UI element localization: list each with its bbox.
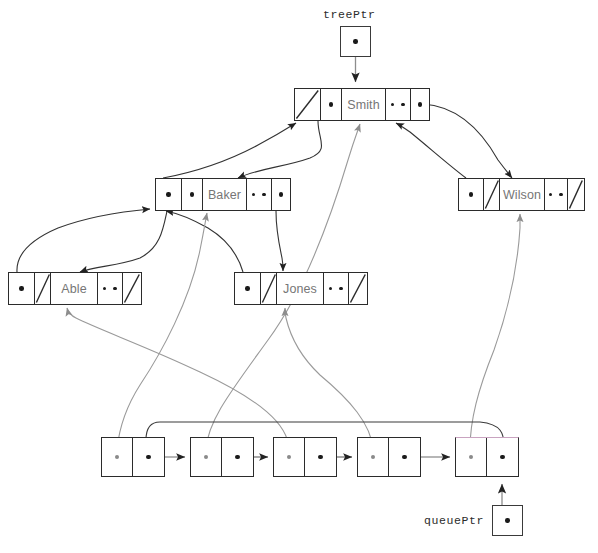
wilson-name-cell: Wilson <box>500 179 544 210</box>
tree-node-jones[interactable]: Jones <box>234 272 368 305</box>
pointer-dot <box>402 455 406 459</box>
queue-node-4-data-pointer-cell <box>358 438 389 476</box>
pointer-dot <box>469 455 473 459</box>
queue-node-2-next-pointer-cell <box>222 438 253 476</box>
node-layer: treePtr Smith <box>0 0 598 553</box>
null-slash-icon <box>349 273 367 304</box>
able-right-null-cell <box>123 273 141 304</box>
queue-node-3-data-pointer-cell <box>274 438 305 476</box>
smith-data-cell <box>386 89 412 120</box>
queue-node-3[interactable] <box>273 437 337 477</box>
queue-node-2-data-pointer-cell <box>191 438 222 476</box>
pointer-dot <box>418 102 422 106</box>
jones-parent-pointer-cell <box>235 273 261 304</box>
ellipsis-icon <box>545 193 569 196</box>
null-slash-icon <box>123 273 141 304</box>
smith-right-pointer-cell <box>411 89 429 120</box>
baker-parent-pointer-cell <box>156 179 182 210</box>
queue-node-2[interactable] <box>190 437 254 477</box>
queue-node-1-data-pointer-cell <box>102 438 133 476</box>
tree-node-able[interactable]: Able <box>8 272 142 305</box>
pointer-dot <box>329 102 333 106</box>
jones-left-null-cell <box>261 273 278 304</box>
null-slash-icon <box>295 89 320 120</box>
ellipsis-icon <box>247 193 273 196</box>
able-parent-pointer-cell <box>9 273 35 304</box>
pointer-dot <box>204 455 208 459</box>
treeptr-label: treePtr <box>323 8 376 21</box>
smith-parent-null-cell <box>295 89 321 120</box>
queue-node-1[interactable] <box>101 437 165 477</box>
pointer-dot <box>146 455 150 459</box>
pointer-dot <box>318 455 322 459</box>
baker-name-cell: Baker <box>203 179 246 210</box>
pointer-dot <box>245 286 249 290</box>
able-name-cell: Able <box>51 273 97 304</box>
jones-name-cell: Jones <box>277 273 323 304</box>
pointer-dot <box>279 192 283 196</box>
jones-data-cell <box>324 273 350 304</box>
wilson-parent-pointer-cell <box>459 179 484 210</box>
pointer-dot <box>469 192 473 196</box>
ellipsis-icon <box>98 287 124 290</box>
queue-node-5[interactable] <box>455 437 519 477</box>
baker-right-pointer-cell <box>272 179 290 210</box>
queue-node-5-next-pointer-cell <box>487 438 518 476</box>
treeptr-dot <box>353 39 357 43</box>
pointer-dot <box>371 455 375 459</box>
pointer-dot <box>287 455 291 459</box>
pointer-dot <box>166 192 170 196</box>
null-slash-icon <box>568 179 584 210</box>
null-slash-icon <box>261 273 277 304</box>
smith-name-cell: Smith <box>342 89 385 120</box>
pointer-dot <box>500 455 504 459</box>
tree-node-baker[interactable]: Baker <box>155 178 291 211</box>
smith-left-pointer-cell <box>321 89 343 120</box>
ellipsis-icon <box>324 287 350 290</box>
pointer-dot <box>19 286 23 290</box>
pointer-dot <box>190 192 194 196</box>
treeptr-box[interactable] <box>340 26 371 57</box>
queue-node-4-next-pointer-cell <box>389 438 420 476</box>
queueptr-label: queuePtr <box>424 514 484 527</box>
baker-data-cell <box>247 179 273 210</box>
baker-left-pointer-cell <box>182 179 204 210</box>
null-slash-icon <box>35 273 51 304</box>
wilson-right-null-cell <box>568 179 584 210</box>
tree-queue-diagram: treePtr Smith <box>0 0 598 553</box>
able-data-cell <box>98 273 124 304</box>
tree-node-smith[interactable]: Smith <box>294 88 430 121</box>
queueptr-dot <box>505 518 509 522</box>
wilson-data-cell <box>545 179 569 210</box>
wilson-left-null-cell <box>484 179 501 210</box>
tree-node-wilson[interactable]: Wilson <box>458 178 585 211</box>
queueptr-box[interactable] <box>492 505 523 536</box>
queue-node-4[interactable] <box>357 437 421 477</box>
pointer-dot <box>235 455 239 459</box>
pointer-dot <box>115 455 119 459</box>
queue-node-3-next-pointer-cell <box>305 438 336 476</box>
queue-node-5-data-pointer-cell <box>456 438 487 476</box>
null-slash-icon <box>484 179 500 210</box>
ellipsis-icon <box>386 103 412 106</box>
able-left-null-cell <box>35 273 52 304</box>
jones-right-null-cell <box>349 273 367 304</box>
queue-node-1-next-pointer-cell <box>133 438 164 476</box>
